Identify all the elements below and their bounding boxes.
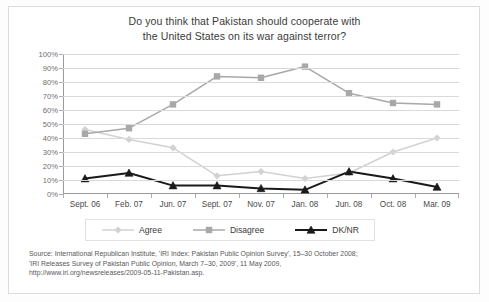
data-point-marker <box>170 101 176 107</box>
source-line-3: http://www.iri.org/newsreleases/2009-05-… <box>29 268 459 278</box>
data-point-marker <box>258 75 264 81</box>
gridline <box>63 166 459 167</box>
chart-title: Do you think that Pakistan should cooper… <box>0 14 489 43</box>
legend-marker-triangle-icon <box>294 224 328 236</box>
x-axis-tick <box>283 194 284 198</box>
gridline <box>63 110 459 111</box>
y-axis-tick-label: 70% <box>43 92 58 101</box>
legend-item[interactable]: Agree <box>101 224 162 236</box>
x-axis-tick <box>195 194 196 198</box>
legend-label: DK/NR <box>332 225 359 235</box>
data-point-marker <box>125 136 132 143</box>
data-point-marker <box>169 144 176 151</box>
chart-title-line-1: Do you think that Pakistan should cooper… <box>0 14 489 29</box>
y-axis-tick-label: 60% <box>43 106 58 115</box>
chart-legend: AgreeDisagreeDK/NR <box>85 219 375 241</box>
x-axis-tick-label: Sept. 06 <box>70 200 101 209</box>
x-axis-tick <box>415 194 416 198</box>
data-point-marker <box>214 73 220 79</box>
y-axis-tick-label: 0% <box>47 190 58 199</box>
y-axis-tick-label: 30% <box>43 148 58 157</box>
x-axis-tick <box>107 194 108 198</box>
gridline <box>63 82 459 83</box>
data-point-marker <box>82 131 88 137</box>
x-axis-tick-label: Nov. 07 <box>247 200 275 209</box>
gridline <box>63 96 459 97</box>
legend-label: Agree <box>139 225 162 235</box>
chart-title-line-2: the United States on its war against ter… <box>0 29 489 44</box>
plot-canvas <box>63 54 459 194</box>
x-axis-labels: Sept. 06Feb. 07Jun. 07Sept. 07Nov. 07Jan… <box>63 200 459 216</box>
y-axis-tick <box>59 166 63 167</box>
y-axis-tick-label: 80% <box>43 78 58 87</box>
data-point-marker <box>434 101 440 107</box>
legend-label: Disagree <box>230 225 264 235</box>
y-axis-tick <box>59 96 63 97</box>
legend-marker-square-icon <box>192 224 226 236</box>
x-axis-tick <box>327 194 328 198</box>
gridline <box>63 54 459 55</box>
x-axis-tick <box>239 194 240 198</box>
y-axis-tick-label: 50% <box>43 120 58 129</box>
data-point-marker <box>213 172 220 179</box>
y-axis-labels: 0%10%20%30%40%50%60%70%80%90%100% <box>27 54 61 194</box>
y-axis-tick-label: 10% <box>43 176 58 185</box>
legend-item[interactable]: Disagree <box>192 224 264 236</box>
source-line-1: Source: International Republican Institu… <box>29 249 459 259</box>
chart-page: Do you think that Pakistan should cooper… <box>0 0 489 302</box>
y-axis-tick <box>59 124 63 125</box>
y-axis-tick <box>59 138 63 139</box>
y-axis-tick <box>59 82 63 83</box>
data-point-marker <box>206 227 212 233</box>
x-axis-tick <box>458 194 459 198</box>
plot-area: 0%10%20%30%40%50%60%70%80%90%100% Sept. … <box>27 54 467 202</box>
data-point-marker <box>301 175 308 182</box>
y-axis-tick <box>59 54 63 55</box>
y-axis-tick-label: 100% <box>39 50 58 59</box>
x-axis-tick-label: Jun. 07 <box>160 200 187 209</box>
source-note: Source: International Republican Institu… <box>29 249 459 278</box>
gridline <box>63 138 459 139</box>
x-axis-tick-label: Mar. 09 <box>423 200 450 209</box>
gridline <box>63 180 459 181</box>
y-axis-tick <box>59 180 63 181</box>
x-axis-tick <box>151 194 152 198</box>
gridline <box>63 124 459 125</box>
y-axis-tick-label: 20% <box>43 162 58 171</box>
y-axis-tick-label: 40% <box>43 134 58 143</box>
gridline <box>63 152 459 153</box>
legend-item[interactable]: DK/NR <box>294 224 359 236</box>
y-axis-tick <box>59 68 63 69</box>
y-axis-tick <box>59 110 63 111</box>
x-axis-tick-label: Sept. 07 <box>202 200 233 209</box>
x-axis-tick <box>371 194 372 198</box>
source-line-2: 'IRI Releases Survey of Pakistan Public … <box>29 259 459 269</box>
data-point-marker <box>126 125 132 131</box>
x-axis-tick-label: Feb. 07 <box>115 200 143 209</box>
y-axis-tick <box>59 152 63 153</box>
x-axis-tick-label: Jan. 08 <box>292 200 319 209</box>
x-axis-tick-label: Jun. 08 <box>336 200 363 209</box>
x-axis-tick <box>63 194 64 198</box>
data-point-marker <box>257 168 264 175</box>
legend-marker-diamond-icon <box>101 224 135 236</box>
x-axis-tick-label: Oct. 08 <box>380 200 406 209</box>
data-point-marker <box>390 100 396 106</box>
gridline <box>63 68 459 69</box>
y-axis-tick-label: 90% <box>43 64 58 73</box>
data-point-marker <box>114 226 121 233</box>
